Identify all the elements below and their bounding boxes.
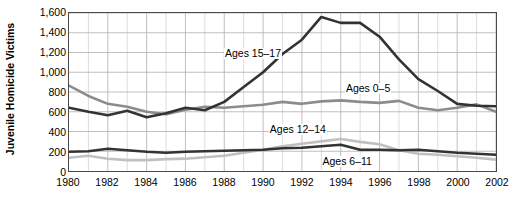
- x-tick-label: 1990: [241, 176, 285, 188]
- series-label: Ages 6–11: [322, 156, 373, 167]
- series-label: Ages 12–14: [269, 124, 327, 135]
- y-axis-tick-labels: 02004006008001,0001,2001,4001,600: [18, 0, 66, 178]
- x-tick-label: 1996: [358, 176, 402, 188]
- x-tick-label: 1988: [202, 176, 246, 188]
- y-tick-label: 1,400: [20, 27, 66, 38]
- y-tick-label: 600: [20, 107, 66, 118]
- y-tick-label: 400: [20, 127, 66, 138]
- series-label: Ages 0–5: [345, 83, 391, 94]
- x-tick-label: 2002: [475, 176, 519, 188]
- plot-area: [68, 12, 497, 172]
- y-tick-label: 800: [20, 87, 66, 98]
- x-tick-label: 1980: [46, 176, 90, 188]
- x-tick-label: 1994: [319, 176, 363, 188]
- y-tick-label: 200: [20, 147, 66, 158]
- x-tick-label: 1998: [397, 176, 441, 188]
- juvenile-homicide-victims-chart: Juvenile Homicide Victims 02004006008001…: [0, 0, 525, 203]
- x-tick-label: 1982: [85, 176, 129, 188]
- y-tick-label: 1,600: [20, 7, 66, 18]
- x-tick-label: 1986: [163, 176, 207, 188]
- x-tick-label: 1992: [280, 176, 324, 188]
- y-axis-title-text: Juvenile Homicide Victims: [4, 23, 16, 155]
- y-axis-title: Juvenile Homicide Victims: [0, 0, 20, 178]
- series-line: [69, 86, 496, 115]
- x-tick-label: 2000: [436, 176, 480, 188]
- y-tick-label: 1,000: [20, 67, 66, 78]
- data-series-lines: [69, 13, 496, 171]
- y-tick-label: 1,200: [20, 47, 66, 58]
- x-tick-label: 1984: [124, 176, 168, 188]
- x-axis-tick-labels: 1980198219841986198819901992199419961998…: [68, 176, 497, 196]
- series-label: Ages 15–17: [224, 48, 282, 59]
